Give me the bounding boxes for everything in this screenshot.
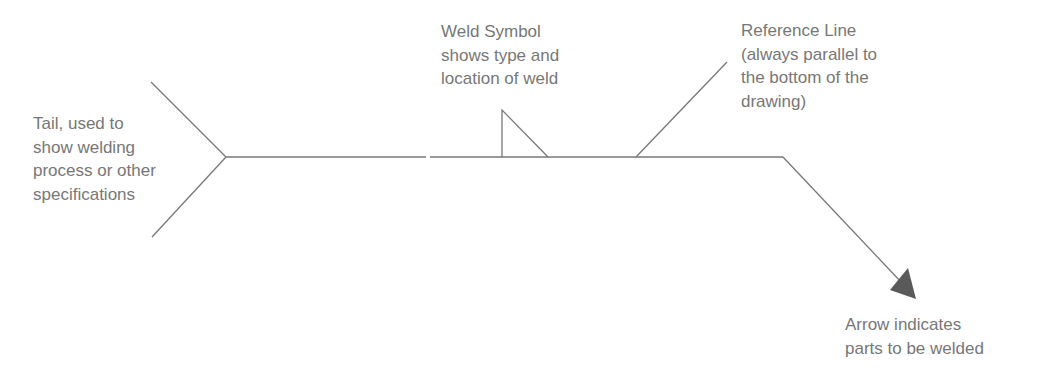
fillet-weld-symbol [502, 110, 548, 157]
arrowhead-icon [890, 268, 916, 299]
tail-label: Tail, used to show welding process or ot… [33, 112, 156, 206]
tail-lower-line [152, 157, 226, 237]
tail-upper-line [151, 82, 226, 157]
arrow-shaft [783, 157, 902, 283]
weld-symbol-label: Weld Symbol shows type and location of w… [441, 20, 559, 91]
reference-line-leader [636, 62, 727, 157]
reference-line-label: Reference Line (always parallel to the b… [741, 19, 877, 113]
arrow-label: Arrow indicates parts to be welded [845, 313, 984, 360]
